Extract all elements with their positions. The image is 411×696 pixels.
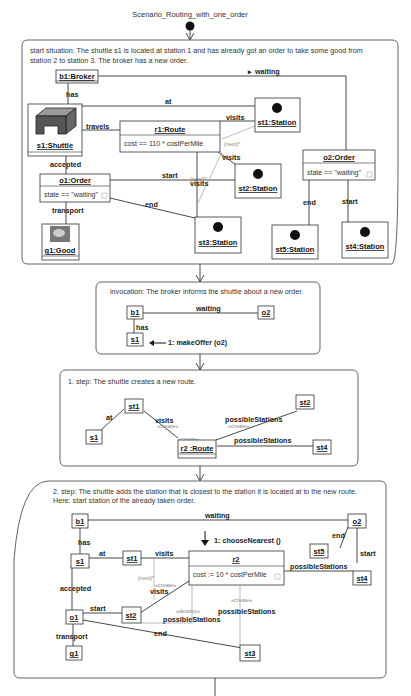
station-icon [213,222,223,232]
link-label: has [66,90,78,99]
object-label: o2 [353,517,362,526]
link-label: has [136,323,148,332]
frame-invocation: invocation: The broker informs the shutt… [96,282,320,354]
object-r2-route[interactable]: r2 cost := 10 * costPerMile [189,551,284,585]
initial-node [186,22,195,31]
object-o1[interactable]: o1 [66,610,83,624]
link-label: {next}* [224,141,241,147]
object-label: st4 [317,443,329,452]
object-o2[interactable]: o2 [348,514,366,528]
link-label: at [106,413,113,422]
object-st4[interactable]: st4 [313,440,331,454]
object-label: st2 [126,611,137,620]
object-label: g1:Good [45,246,76,255]
link-label: start [90,604,106,613]
link-label: end [145,200,158,209]
link-label: has [78,538,90,547]
link-label: end [303,198,316,207]
object-label: st4 [357,574,369,583]
object-s1[interactable]: s1 [127,333,143,346]
object-label: b1 [131,308,140,317]
frame-description: invocation: The broker informs the shutt… [110,287,303,296]
object-s1[interactable]: s1 [86,430,102,444]
object-attribute: state == "waiting" [307,169,362,177]
stereotype-label: «create» [228,423,249,429]
object-st5[interactable]: st5 [310,544,328,558]
station-icon [253,169,263,179]
message-label: 1: chooseNearest () [214,536,281,545]
object-label: st2 [300,398,311,407]
object-attribute: cost := 10 * costPerMile [193,571,267,578]
link-label: visits [150,587,168,596]
object-label: o1 [70,613,79,622]
link-label: visits [155,549,173,558]
link-label: visits [222,153,240,162]
object-label: s1 [90,433,98,442]
object-label: st1 [127,554,138,563]
object-s1[interactable]: s1 [71,554,89,568]
object-b1[interactable]: b1 [72,514,88,528]
object-label: st1:Station [258,118,297,127]
object-st3[interactable]: st3 [240,645,260,661]
stereotype-label: «create» [157,423,178,429]
flow-arrow [196,466,204,481]
object-st2[interactable]: st2 [296,395,314,409]
object-st2-station[interactable]: st2:Station [235,164,281,198]
stereotype-label: «create» [231,597,252,603]
stereotype-label: «destroy» [176,608,200,614]
object-o1-order[interactable]: o1:Order state == "waiting" [40,174,110,202]
object-st2[interactable]: st2 [122,607,141,623]
object-st3-station[interactable]: st3:Station [195,217,241,253]
link-label: waiting [254,67,280,76]
object-g1-good[interactable]: g1:Good [42,224,79,260]
frame-description: 1. step: The shuttle creates a new route… [68,377,196,386]
object-o2-order[interactable]: o2:Order state == "waiting" [303,150,375,180]
object-st4-station[interactable]: st4:Station [342,222,388,258]
object-label: b1 [76,517,85,526]
object-s1-shuttle[interactable]: s1:Shuttle [28,104,82,156]
object-label: s1 [76,557,84,566]
message-label: 1: makeOffer (o2) [168,338,228,347]
object-label: o1:Order [59,176,91,185]
link-label: visits [190,179,208,188]
link-label: start [342,197,358,206]
link-label: start [162,171,178,180]
link-label: accepted [50,160,81,169]
object-label: st3:Station [199,238,238,247]
link-label: possibleStations [163,615,221,624]
object-st4[interactable]: st4 [353,571,371,585]
object-b1-broker[interactable]: b1:Broker [56,70,98,83]
object-label: st4:Station [346,242,385,251]
object-label: st2:Station [239,184,278,193]
frame-start-situation: start situation: The shuttle s1 is locat… [22,40,398,264]
object-st1[interactable]: st1 [123,551,141,565]
link-label: at [165,97,172,106]
link-label: travels [86,122,109,131]
role-arrow: ▸ [247,67,252,76]
object-o2[interactable]: o2 [258,306,274,319]
object-label: s1:Shuttle [37,141,73,150]
station-icon [360,227,370,237]
object-label: st5 [314,547,325,556]
link-label: end [332,531,345,540]
object-st1[interactable]: st1 [125,399,143,413]
frame-description: Here: start station of the already taken… [53,496,195,505]
link-label: transport [56,632,88,641]
object-r2-route[interactable]: r2 :Route [178,440,216,458]
object-label: b1:Broker [59,72,95,81]
link-label: possibleStations [234,436,292,445]
object-b1[interactable]: b1 [127,306,143,319]
object-r1-route[interactable]: r1:Route cost == 110 * costPerMile [120,121,220,152]
flow-arrow [196,354,204,370]
link-label: possibleStations [218,607,276,616]
object-g1[interactable]: g1 [66,646,82,660]
object-attribute: cost == 110 * costPerMile [124,140,203,147]
object-st5-station[interactable]: st5:Station [272,225,318,259]
flow-arrow [186,30,194,40]
object-label: s1 [131,335,139,344]
link-label: end [154,629,167,638]
object-st1-station[interactable]: st1:Station [255,98,300,132]
object-label: r2 :Route [181,444,214,453]
frame-step-1: 1. step: The shuttle creates a new route… [60,370,358,466]
frame-description: station 2 to station 3. The broker has a… [30,56,188,65]
